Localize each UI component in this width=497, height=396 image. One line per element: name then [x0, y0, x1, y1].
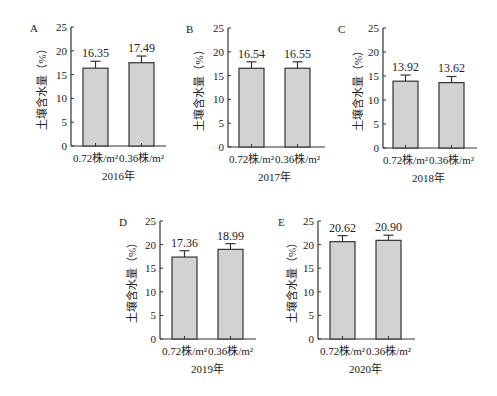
y-tick-label: 0 [309, 333, 315, 345]
value-label: 20.90 [375, 220, 402, 234]
y-axis-label: 土壤含水量（%） [192, 44, 205, 130]
value-label: 18.99 [217, 229, 244, 243]
y-tick-label: 25 [145, 215, 157, 227]
y-tick-label: 25 [303, 215, 315, 227]
value-label: 16.55 [284, 47, 311, 61]
y-tick-label: 25 [56, 21, 68, 33]
value-label: 16.35 [82, 46, 109, 60]
y-tick-label: 20 [303, 239, 315, 251]
chart-panel-e: E土壤含水量（%）051015202520.620.72株/m²20.900.3… [278, 215, 415, 375]
bar [83, 68, 108, 146]
x-axis-year-label: 2018年 [412, 171, 445, 184]
y-tick-label: 15 [303, 262, 315, 274]
x-category-label: 0.72株/m² [320, 344, 366, 357]
soil-moisture-figure: A土壤含水量（%）051015202516.350.72株/m²17.490.3… [0, 0, 497, 396]
y-axis-label: 土壤含水量（%） [285, 237, 298, 323]
y-tick-label: 5 [151, 309, 157, 321]
y-tick-label: 10 [145, 286, 157, 298]
x-axis-year-label: 2017年 [258, 170, 291, 183]
value-label: 20.62 [329, 221, 356, 235]
x-axis-year-label: 2019年 [191, 362, 224, 375]
value-label: 17.36 [171, 236, 198, 250]
bar [285, 68, 310, 147]
panel-letter: E [278, 216, 285, 228]
x-category-label: 0.72株/m² [229, 152, 275, 165]
bar [172, 257, 197, 339]
bar [330, 242, 355, 339]
bar [393, 81, 418, 148]
x-axis-year-label: 2020年 [349, 362, 382, 375]
value-label: 13.92 [392, 60, 419, 74]
y-tick-label: 0 [151, 333, 157, 345]
y-tick-label: 5 [62, 116, 68, 128]
y-tick-label: 10 [213, 93, 225, 105]
y-tick-label: 0 [374, 142, 380, 154]
y-tick-label: 20 [145, 239, 157, 251]
bar [439, 83, 464, 148]
y-axis-label: 土壤含水量（%） [35, 43, 48, 129]
y-tick-label: 10 [368, 94, 380, 106]
y-tick-label: 15 [368, 70, 380, 82]
panel-letter: C [338, 23, 345, 35]
y-tick-label: 25 [368, 22, 380, 34]
chart-panel-d: D土壤含水量（%）051015202517.360.72株/m²18.990.3… [119, 215, 256, 375]
bar [129, 63, 154, 146]
x-axis-year-label: 2016年 [102, 169, 135, 182]
y-tick-label: 20 [56, 45, 68, 57]
y-tick-label: 0 [62, 140, 68, 152]
y-axis-label: 土壤含水量（%） [351, 45, 364, 131]
y-tick-label: 10 [56, 92, 68, 104]
y-tick-label: 5 [374, 118, 380, 130]
panel-letter: D [119, 216, 127, 228]
value-label: 17.49 [128, 41, 155, 55]
x-category-label: 0.36株/m² [119, 151, 165, 164]
y-tick-label: 15 [56, 69, 68, 81]
x-category-label: 0.72株/m² [383, 153, 429, 166]
panel-letter: B [186, 23, 193, 35]
y-tick-label: 25 [213, 22, 225, 34]
bar [218, 249, 243, 339]
x-category-label: 0.36株/m² [429, 153, 475, 166]
y-tick-label: 20 [368, 46, 380, 58]
y-tick-label: 15 [213, 70, 225, 82]
chart-panel-b: B土壤含水量（%）051015202516.540.72株/m²16.550.3… [186, 22, 325, 183]
x-category-label: 0.36株/m² [275, 152, 321, 165]
figure-stage: A土壤含水量（%）051015202516.350.72株/m²17.490.3… [0, 0, 497, 396]
y-tick-label: 15 [145, 262, 157, 274]
value-label: 16.54 [238, 47, 265, 61]
chart-panel-c: C土壤含水量（%）051015202513.920.72株/m²13.620.3… [338, 22, 477, 184]
bar [239, 68, 264, 147]
y-tick-label: 10 [303, 286, 315, 298]
y-tick-label: 5 [219, 117, 225, 129]
chart-panel-a: A土壤含水量（%）051015202516.350.72株/m²17.490.3… [30, 21, 166, 182]
x-category-label: 0.36株/m² [366, 344, 412, 357]
bar [376, 240, 401, 339]
value-label: 13.62 [438, 61, 465, 75]
x-category-label: 0.72株/m² [73, 151, 119, 164]
y-tick-label: 5 [309, 309, 315, 321]
y-axis-label: 土壤含水量（%） [125, 237, 138, 323]
x-category-label: 0.36株/m² [208, 344, 254, 357]
x-category-label: 0.72株/m² [162, 344, 208, 357]
y-tick-label: 20 [213, 46, 225, 58]
panel-letter: A [30, 22, 38, 34]
y-tick-label: 0 [219, 141, 225, 153]
